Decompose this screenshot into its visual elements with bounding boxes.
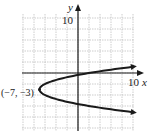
curve-arrowheads	[131, 64, 137, 115]
y-axis-arrow-icon	[75, 4, 81, 11]
y-tick-label-10: 10	[62, 14, 74, 26]
parabola-graph: y 10 10 x (−7, −3)	[0, 0, 151, 136]
curve-arrowhead-icon	[131, 64, 137, 70]
x-axis-label: x	[141, 76, 147, 88]
vertex-label: (−7, −3)	[1, 87, 34, 99]
parabola-curve	[40, 67, 133, 112]
curve-arrowhead-icon	[131, 109, 137, 115]
vertex-point	[38, 88, 41, 91]
y-axis-label: y	[67, 1, 73, 13]
x-tick-label-10: 10	[128, 76, 140, 88]
